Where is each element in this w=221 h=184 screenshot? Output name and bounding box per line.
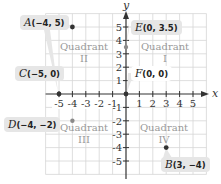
svg-text:2: 2	[150, 98, 156, 109]
quadrant-3-numeral: III	[78, 134, 90, 145]
quadrant-2-numeral: II	[80, 53, 88, 64]
point-label-f: F(0, 0)	[131, 66, 172, 81]
svg-text:-2: -2	[94, 98, 104, 109]
svg-text:-2: -2	[112, 116, 122, 127]
svg-text:-4: -4	[68, 98, 78, 109]
axes	[46, 15, 205, 179]
svg-text:1: 1	[116, 75, 122, 86]
point-label-b: B(3, −4)	[161, 157, 210, 172]
x-axis-label: x	[212, 87, 219, 100]
svg-text:-5: -5	[112, 156, 122, 167]
point-label-e: E(0, 3.5)	[131, 20, 182, 35]
svg-text:1: 1	[136, 98, 142, 109]
svg-text:3: 3	[163, 98, 169, 109]
svg-text:5: 5	[116, 22, 122, 33]
point-label-d: D(−4, −2)	[4, 117, 60, 132]
point-d	[70, 119, 74, 123]
svg-text:-3: -3	[112, 129, 122, 140]
point-c	[57, 92, 62, 97]
quadrant-4-word: Quadrant	[140, 122, 188, 133]
svg-text:-1: -1	[112, 102, 122, 113]
svg-text:2: 2	[116, 62, 122, 73]
svg-text:-3: -3	[81, 98, 91, 109]
svg-text:5: 5	[190, 98, 196, 109]
y-axis-arrow-icon	[123, 11, 129, 19]
svg-text:-4: -4	[112, 142, 122, 153]
point-a	[70, 25, 75, 30]
quadrant-2-word: Quadrant	[60, 41, 108, 52]
svg-text:-5: -5	[54, 98, 64, 109]
y-axis-label: y	[122, 0, 130, 12]
svg-text:4: 4	[116, 35, 122, 46]
point-label-c: C(−5, 0)	[15, 66, 64, 81]
quadrant-1-word: Quadrant	[141, 41, 189, 52]
point-e	[124, 45, 128, 49]
svg-text:3: 3	[116, 49, 122, 60]
point-f	[124, 92, 129, 97]
quadrant-3-word: Quadrant	[60, 122, 108, 133]
point-label-a: A(−4, 5)	[20, 15, 69, 30]
x-axis-arrow-icon	[201, 91, 209, 97]
quadrant-4-numeral: IV	[158, 134, 170, 145]
quadrant-1-numeral: I	[163, 53, 167, 64]
svg-text:4: 4	[176, 98, 182, 109]
point-b	[164, 145, 169, 150]
